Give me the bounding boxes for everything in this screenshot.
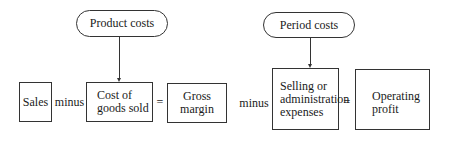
minus-operator-1: minus <box>54 92 85 112</box>
product-costs-label: Product costs <box>90 16 154 31</box>
minus-operator-2: minus <box>238 93 270 113</box>
period-costs-node: Period costs <box>263 12 355 38</box>
selling-line-1: Selling or <box>280 80 349 93</box>
equals-operator-2: = <box>339 92 355 112</box>
cost-of-goods-sold-box: Cost of goods sold <box>86 82 153 122</box>
equals-label-1: = <box>157 95 164 110</box>
minus-label-2: minus <box>239 96 268 111</box>
equals-label-2: = <box>344 95 351 110</box>
minus-label-1: minus <box>55 95 84 110</box>
cogs-line-2: goods sold <box>97 102 149 115</box>
product-costs-connector <box>119 37 120 78</box>
product-costs-node: Product costs <box>76 10 168 37</box>
sales-box: Sales <box>19 82 52 122</box>
operating-profit-box: Operating profit <box>355 69 430 130</box>
operating-profit-line-2: profit <box>372 103 420 116</box>
period-costs-connector <box>310 38 311 64</box>
equals-operator-1: = <box>153 92 167 112</box>
gross-margin-box: Gross margin <box>167 83 227 123</box>
period-costs-label: Period costs <box>280 18 338 33</box>
selling-admin-expenses-box: Selling or administration expenses <box>272 68 339 130</box>
sales-label: Sales <box>23 96 48 109</box>
gross-margin-line-2: margin <box>180 103 214 116</box>
